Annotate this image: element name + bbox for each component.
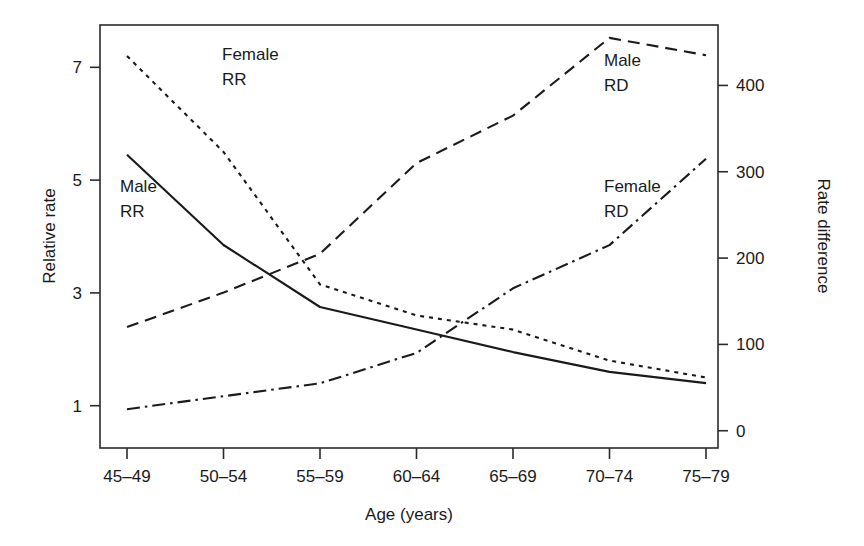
annotation-line-1: Male [604,51,641,70]
x-axis-title: Age (years) [365,505,453,524]
x-tick-label: 45–49 [103,467,150,486]
y2-axis-title: Rate difference [814,179,833,294]
y2-tick-label: 400 [736,76,764,95]
annotation-line-2: RD [604,76,629,95]
x-tick-label: 70–74 [586,467,633,486]
annotation-line-2: RR [222,70,247,89]
y2-tick-label: 300 [736,163,764,182]
annotation-line-1: Female [222,45,279,64]
annotation-line-1: Female [604,177,661,196]
x-tick-label: 55–59 [296,467,343,486]
line-chart: 1357 0100200300400 45–4950–5455–5960–646… [0,0,864,546]
chart-background [0,0,864,546]
x-tick-label: 65–69 [489,467,536,486]
y-tick-label: 3 [73,284,82,303]
y2-tick-label: 0 [736,422,745,441]
y-axis-title: Relative rate [40,188,59,283]
x-tick-label: 50–54 [200,467,247,486]
y-tick-label: 7 [73,58,82,77]
annotation-line-2: RR [120,202,145,221]
y2-tick-label: 100 [736,335,764,354]
annotation-line-1: Male [120,177,157,196]
annotation-line-2: RD [604,202,629,221]
y-tick-label: 5 [73,171,82,190]
chart-figure: 1357 0100200300400 45–4950–5455–5960–646… [0,0,864,546]
x-tick-label: 75–79 [682,467,729,486]
y-tick-label: 1 [73,397,82,416]
x-tick-label: 60–64 [393,467,440,486]
y2-tick-label: 200 [736,249,764,268]
